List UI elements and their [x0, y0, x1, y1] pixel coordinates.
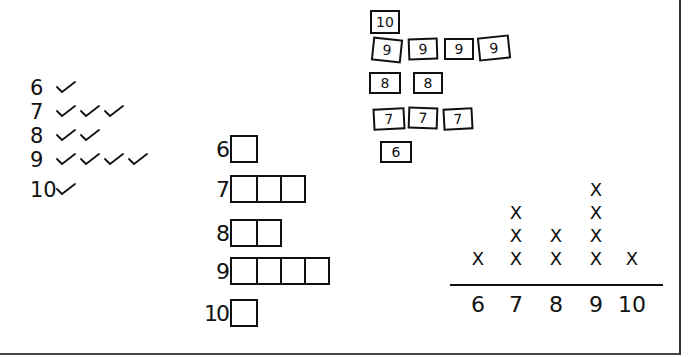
check-mark-icon	[56, 130, 76, 142]
box-cell	[232, 301, 256, 325]
tally-label: 8	[30, 124, 56, 148]
number-card: 9	[477, 34, 511, 61]
number-card: 9	[371, 36, 403, 63]
box-cell	[232, 259, 256, 283]
number-card: 7	[408, 106, 439, 129]
x-mark: X	[586, 202, 606, 224]
x-mark: X	[546, 225, 566, 247]
number-card: 9	[408, 37, 439, 60]
box-graph-row: 8	[200, 219, 282, 247]
check-mark-icon	[128, 154, 148, 166]
box-graph-row: 9	[200, 257, 330, 285]
box-cell	[256, 221, 280, 245]
box-graph-label: 8	[200, 221, 228, 246]
box-cell	[280, 259, 304, 283]
check-mark-icon	[80, 154, 100, 166]
number-card: 9	[444, 38, 474, 60]
number-card: 6	[380, 141, 412, 163]
box-graph-label: 6	[200, 137, 228, 162]
axis-tick-label: 6	[463, 292, 493, 317]
x-mark: X	[546, 248, 566, 270]
x-mark: X	[586, 179, 606, 201]
check-mark-icon	[56, 106, 76, 118]
line-plot: X6XXX7XX8XXXX9X10	[450, 160, 665, 330]
axis-tick-label: 8	[541, 292, 571, 317]
check-mark-icon	[80, 106, 100, 118]
tally-label: 9	[30, 148, 56, 172]
box-graph-label: 7	[200, 177, 228, 202]
tally-row: 9	[30, 148, 152, 172]
check-mark-icon	[56, 154, 76, 166]
axis-tick-label: 9	[581, 292, 611, 317]
box-cell	[232, 177, 256, 201]
x-mark: X	[506, 202, 526, 224]
box-cell	[232, 221, 256, 245]
axis-tick-label: 7	[501, 292, 531, 317]
x-mark: X	[586, 248, 606, 270]
tally-label: 6	[30, 76, 56, 100]
box-graph-bar	[230, 219, 282, 247]
box-graph-row: 10	[200, 299, 258, 327]
tally-row: 10	[30, 178, 80, 202]
check-mark-icon	[80, 130, 100, 142]
box-graph-row: 6	[200, 135, 258, 163]
tally-row: 6	[30, 76, 80, 100]
box-graph-bar	[230, 299, 258, 327]
number-card: 7	[372, 107, 405, 131]
box-cell	[256, 259, 280, 283]
check-mark-icon	[104, 154, 124, 166]
box-graph-label: 10	[200, 301, 228, 326]
box-graph-label: 9	[200, 259, 228, 284]
tally-label: 10	[30, 178, 56, 202]
number-card: 7	[442, 107, 473, 131]
box-graph-bar	[230, 135, 258, 163]
tally-label: 7	[30, 100, 56, 124]
box-cell	[232, 137, 256, 161]
x-mark: X	[468, 248, 488, 270]
x-mark: X	[622, 248, 642, 270]
box-cell	[304, 259, 328, 283]
x-mark: X	[586, 225, 606, 247]
tally-row: 7	[30, 100, 128, 124]
tally-row: 8	[30, 124, 104, 148]
check-mark-icon	[56, 184, 76, 196]
x-mark: X	[506, 225, 526, 247]
number-card: 10	[370, 10, 400, 34]
check-mark-icon	[56, 82, 76, 94]
check-mark-icon	[104, 106, 124, 118]
number-card: 8	[413, 72, 443, 94]
box-cell	[256, 177, 280, 201]
axis-tick-label: 10	[617, 292, 647, 317]
box-cell	[280, 177, 304, 201]
line-plot-axis	[450, 284, 663, 286]
box-graph-row: 7	[200, 175, 306, 203]
x-mark: X	[506, 248, 526, 270]
number-card: 8	[369, 72, 401, 94]
box-graph-bar	[230, 175, 306, 203]
box-graph-bar	[230, 257, 330, 285]
